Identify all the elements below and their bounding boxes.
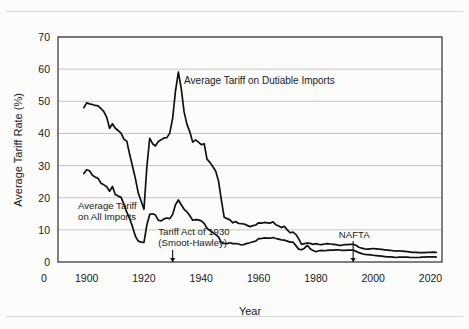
- nafta-label: NAFTA: [339, 229, 370, 240]
- x-tick-0: 0: [41, 272, 47, 284]
- dutiable-label: Average Tariff on Dutiable Imports: [184, 75, 335, 86]
- annotations-group: Average Tariff on Dutiable ImportsAverag…: [78, 75, 370, 262]
- tariff-rate-chart-figure: 010203040506070 019001920194019601980200…: [0, 0, 469, 329]
- y-axis-tick-labels: 010203040506070: [38, 31, 50, 268]
- x-axis-title: Year: [239, 305, 262, 317]
- y-tick-10: 10: [38, 224, 50, 236]
- x-tick-1980: 1980: [304, 272, 328, 284]
- y-axis-title: Average Tariff Rate (%): [12, 93, 24, 207]
- all-imports-label-line1: Average Tariff: [78, 200, 137, 211]
- x-axis-tick-labels: 01900192019401960198020002020: [41, 272, 442, 284]
- y-tick-0: 0: [44, 256, 50, 268]
- all-imports-label-line2: on All Imports: [78, 211, 136, 222]
- y-tick-30: 30: [38, 160, 50, 172]
- plot-frame: [58, 37, 442, 262]
- y-tick-40: 40: [38, 127, 50, 139]
- y-tick-20: 20: [38, 192, 50, 204]
- chart-svg: 010203040506070 019001920194019601980200…: [0, 0, 469, 329]
- x-tick-2000: 2000: [362, 272, 386, 284]
- y-tick-60: 60: [38, 63, 50, 75]
- x-tick-1960: 1960: [247, 272, 271, 284]
- x-tick-1900: 1900: [75, 272, 99, 284]
- x-tick-1920: 1920: [132, 272, 156, 284]
- smoot-hawley-label-line2: (Smoot-Hawley): [158, 237, 227, 248]
- y-tick-70: 70: [38, 31, 50, 43]
- smoot-hawley-label-line1: Tariff Act of 1930: [158, 226, 229, 237]
- y-tick-50: 50: [38, 95, 50, 107]
- series-line-0: [84, 72, 436, 253]
- plot-border: [58, 37, 442, 262]
- x-tick-1940: 1940: [190, 272, 214, 284]
- x-tick-2020: 2020: [419, 272, 443, 284]
